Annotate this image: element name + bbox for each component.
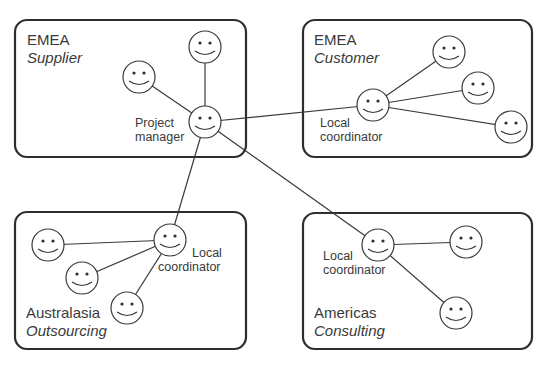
face-outline — [66, 262, 98, 294]
face-outline — [154, 224, 186, 256]
face-eye — [381, 239, 384, 242]
face-outline — [123, 61, 155, 93]
face-eye — [449, 307, 452, 310]
smiley-face-icon — [433, 36, 465, 68]
face-outline — [111, 292, 143, 324]
role-label-americas-coordinator-line1: Local — [323, 249, 353, 263]
face-outline — [433, 36, 465, 68]
face-eye — [514, 121, 517, 124]
region-name-australasia: Australasia — [26, 304, 101, 321]
smiley-face-icon — [357, 89, 389, 121]
smiley-face-icon — [189, 31, 221, 63]
smiley-face-icon — [32, 229, 64, 261]
role-label-americas-coordinator-line2: coordinator — [323, 263, 386, 277]
face-eye — [51, 239, 54, 242]
face-eye — [376, 99, 379, 102]
face-eye — [442, 46, 445, 49]
face-eye — [208, 116, 211, 119]
face-outline — [32, 229, 64, 261]
smiley-face-icon — [66, 262, 98, 294]
face-eye — [142, 71, 145, 74]
face-eye — [41, 239, 44, 242]
face-outline — [462, 72, 494, 104]
face-outline — [357, 89, 389, 121]
face-outline — [495, 111, 527, 143]
smiley-face-icon — [189, 106, 221, 138]
smiley-face-icon — [450, 226, 482, 258]
region-type-outsourcing: Outsourcing — [26, 322, 108, 339]
role-label-project-manager-line2: manager — [135, 130, 184, 144]
face-eye — [459, 307, 462, 310]
face-outline — [450, 226, 482, 258]
smiley-face-icon — [123, 61, 155, 93]
region-name-emea-supplier: EMEA — [27, 31, 70, 48]
face-eye — [132, 71, 135, 74]
face-eye — [85, 272, 88, 275]
face-eye — [198, 116, 201, 119]
face-outline — [189, 31, 221, 63]
role-label-project-manager-line1: Project — [135, 116, 174, 130]
network-diagram: EMEA Supplier EMEA Customer Australasia … — [0, 0, 551, 367]
region-name-americas: Americas — [314, 304, 377, 321]
face-outline — [362, 229, 394, 261]
role-label-emea-coordinator-line1: Local — [320, 116, 350, 130]
face-eye — [452, 46, 455, 49]
smiley-face-icon — [462, 72, 494, 104]
smiley-face-icon — [495, 111, 527, 143]
region-name-emea-customer: EMEA — [314, 31, 357, 48]
face-eye — [371, 239, 374, 242]
role-label-australasia-coordinator-line2: coordinator — [158, 260, 221, 274]
face-eye — [75, 272, 78, 275]
face-eye — [366, 99, 369, 102]
face-eye — [471, 82, 474, 85]
smiley-face-icon — [154, 224, 186, 256]
face-eye — [504, 121, 507, 124]
region-type-emea-supplier: Supplier — [27, 49, 83, 66]
face-eye — [481, 82, 484, 85]
smiley-face-icon — [362, 229, 394, 261]
smiley-face-icon — [111, 292, 143, 324]
face-eye — [198, 41, 201, 44]
face-eye — [130, 302, 133, 305]
smiley-face-icon — [440, 297, 472, 329]
face-eye — [173, 234, 176, 237]
role-label-australasia-coordinator-line1: Local — [192, 246, 222, 260]
face-outline — [189, 106, 221, 138]
region-type-consulting: Consulting — [314, 322, 386, 339]
region-type-emea-customer: Customer — [314, 49, 380, 66]
face-eye — [208, 41, 211, 44]
face-eye — [120, 302, 123, 305]
face-eye — [459, 236, 462, 239]
role-label-emea-coordinator-line2: coordinator — [320, 130, 383, 144]
face-eye — [163, 234, 166, 237]
face-outline — [440, 297, 472, 329]
face-eye — [469, 236, 472, 239]
